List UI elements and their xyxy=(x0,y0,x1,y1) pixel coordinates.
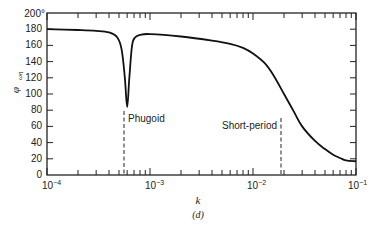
x-axis-title: k xyxy=(196,194,202,206)
x-tick-1e-1: 10−1 xyxy=(348,179,367,191)
y-tick-40: 40 xyxy=(31,137,43,148)
y-axis-symbol: φ xyxy=(9,87,21,93)
y-tick-0: 0 xyxy=(36,169,42,180)
x-tick-1e-2: 10−2 xyxy=(247,179,266,191)
y-axis-ticks xyxy=(47,29,356,159)
plot-frame xyxy=(47,13,356,175)
short-period-label: Short-period xyxy=(222,120,277,131)
x-tick-labels: 10−4 10−3 10−2 10−1 xyxy=(42,179,367,191)
figure-caption: (d) xyxy=(192,209,204,221)
y-axis-subscript: ωη xyxy=(16,71,24,80)
phase-curve xyxy=(47,29,356,161)
y-tick-100: 100 xyxy=(25,88,42,99)
x-tick-1e-3: 10−3 xyxy=(145,179,164,191)
y-tick-20: 20 xyxy=(31,153,43,164)
phase-chart: 0 20 40 60 80 100 120 140 160 180 200° φ… xyxy=(0,0,376,231)
y-tick-120: 120 xyxy=(25,72,42,83)
phugoid-label: Phugoid xyxy=(128,113,165,124)
x-axis-ticks xyxy=(47,13,356,175)
y-tick-160: 160 xyxy=(25,39,42,50)
y-tick-80: 80 xyxy=(31,104,43,115)
y-tick-labels: 0 20 40 60 80 100 120 140 160 180 200° xyxy=(24,8,45,180)
y-axis-title: φ ωη xyxy=(9,71,24,93)
y-tick-200: 200° xyxy=(24,8,45,19)
y-tick-180: 180 xyxy=(25,23,42,34)
y-tick-140: 140 xyxy=(25,56,42,67)
y-tick-60: 60 xyxy=(31,120,43,131)
x-tick-1e-4: 10−4 xyxy=(42,179,61,191)
